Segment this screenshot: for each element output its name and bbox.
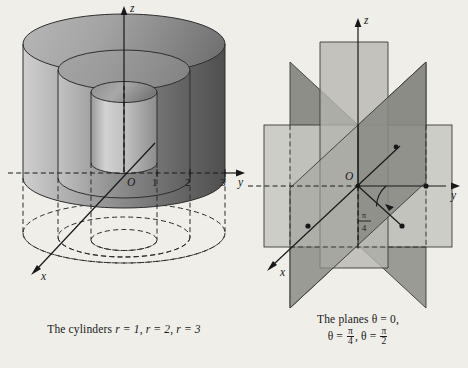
cylinders-canvas: z y x O 1 2 3 [0,0,248,320]
caption-planes-line-2: θ = π4, θ = π2 [248,327,468,348]
y-axis-label: y [450,189,457,202]
base-circles-front [23,233,225,263]
origin-label: O [345,170,354,182]
z-axis-label: z [363,14,369,26]
planes-svg: z y x O π 4 [248,0,468,312]
x-axis-label: x [40,270,47,282]
cylinders-svg: z y x O 1 2 3 [0,0,248,320]
dot-upper-right [394,145,399,150]
fraction-2-denominator: 2 [380,337,387,347]
dot-x-axis [305,223,310,228]
z-axis-arrowhead [355,18,362,27]
dot-theta-ray [399,223,404,228]
planes-canvas: z y x O π 4 [248,0,468,312]
base-front-r1 [91,240,157,251]
y-axis-label: y [237,176,244,189]
caption-cylinders: The cylinders r = 1, r = 2, r = 3 [0,322,248,337]
fraction-1-denominator: 4 [347,337,354,347]
dot-y-axis [423,183,428,188]
figure-planes: z y x O π 4 The planes θ = 0, θ = π4, θ … [248,0,468,368]
angle-label-numerator: π [362,210,367,220]
caption-cylinders-item-1: r = 1 [115,323,140,335]
x-axis-label: x [279,266,286,278]
figure-cylinders: z y x O 1 2 3 The cylinders r = 1, r = 2… [0,0,248,368]
caption-fraction-pi-2: π2 [380,327,387,348]
origin-dot [356,184,361,189]
caption-theta-eq-b: , θ = [355,330,379,342]
tick-label-1: 1 [152,176,158,188]
base-front-r2 [58,237,190,257]
caption-cylinders-item-3: r = 3 [176,323,201,335]
caption-fraction-pi-4: π4 [347,327,354,348]
caption-planes: The planes θ = 0, θ = π4, θ = π2 [248,312,468,348]
caption-theta-eq-a: θ = [328,330,346,342]
caption-planes-line-1: The planes θ = 0, [248,312,468,327]
origin-label: O [127,176,136,188]
z-axis-label: z [129,2,135,14]
z-axis-arrowhead [121,6,128,15]
caption-cylinders-item-2: r = 2 [146,323,171,335]
caption-cylinders-prefix: The cylinders [47,323,115,335]
base-front-r3 [23,233,225,263]
tick-label-2: 2 [185,176,191,188]
tick-label-3: 3 [220,176,226,188]
